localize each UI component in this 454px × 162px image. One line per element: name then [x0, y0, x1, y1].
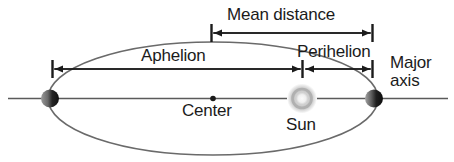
orbit-diagram: Mean distance Aphelion Perihelion Major … — [0, 0, 454, 162]
major-axis-label-line1: Major — [390, 53, 432, 72]
sun-icon — [287, 84, 317, 114]
planet-icon-aphelion — [41, 90, 59, 108]
major-axis-label-line2: axis — [390, 72, 432, 90]
planet-icon-perihelion — [365, 90, 383, 108]
aphelion-label: Aphelion — [141, 47, 206, 65]
center-label: Center — [182, 102, 232, 120]
sun-label: Sun — [286, 116, 316, 134]
mean-distance-measure — [212, 24, 373, 42]
perihelion-label: Perihelion — [297, 43, 371, 61]
orbit-diagram-canvas — [0, 0, 454, 162]
mean-distance-label: Mean distance — [227, 6, 335, 24]
major-axis-label: Major axis — [390, 54, 432, 90]
